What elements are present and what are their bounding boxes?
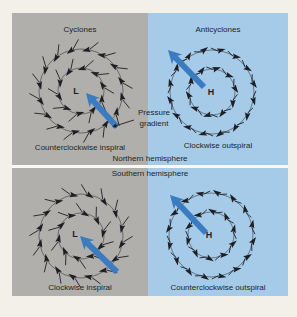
- cyclones-title: Cyclones: [12, 25, 148, 34]
- nh-anticyclone-caption: Clockwise outspiral: [148, 141, 288, 150]
- sh-cyclone-caption: Clockwise inspiral: [12, 283, 148, 292]
- hemisphere-divider-line: [12, 165, 288, 168]
- anticyclones-title: Anticyclones: [148, 25, 288, 34]
- pressure-gradient-label: Pressure gradient: [132, 108, 176, 129]
- northern-hemisphere-label: Northern hemisphere: [12, 154, 288, 163]
- sh-anticyclone-caption: Counterclockwise outspiral: [148, 283, 288, 292]
- southern-hemisphere-label: Southern hemisphere: [12, 169, 288, 178]
- page: { "colors": { "page_bg": "#f3f0ea", "gra…: [0, 0, 297, 317]
- nh-cyclone-caption: Counterclockwise inspiral: [12, 143, 148, 152]
